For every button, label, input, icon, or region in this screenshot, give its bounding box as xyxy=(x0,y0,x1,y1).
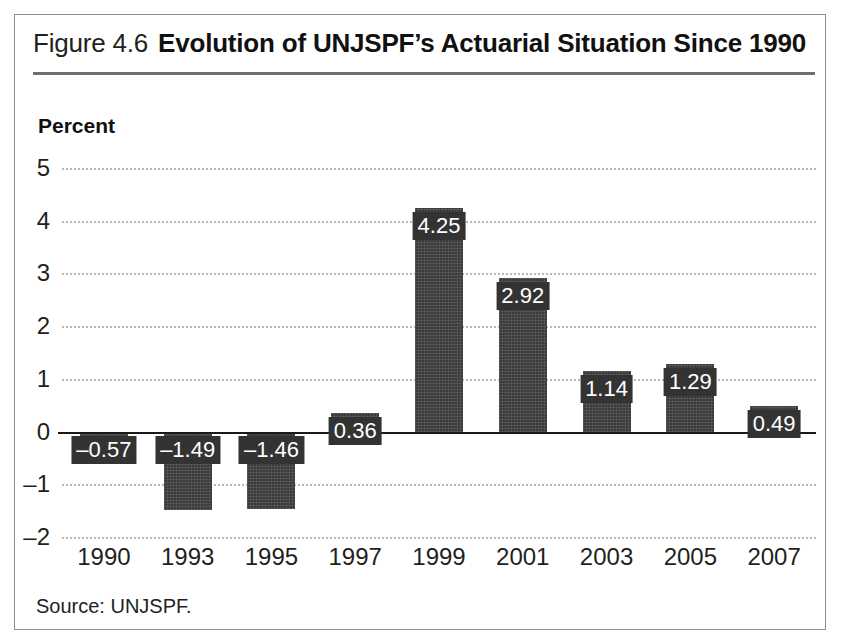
bar-value-label: 1.14 xyxy=(580,375,633,403)
figure-panel: Figure 4.6Evolution of UNJSPF’s Actuaria… xyxy=(0,0,845,643)
zero-axis-line xyxy=(58,432,816,434)
y-axis-title: Percent xyxy=(38,114,115,138)
x-axis-tick-label: 1999 xyxy=(412,543,465,571)
title-divider xyxy=(33,72,815,75)
bar-value-label: 1.29 xyxy=(664,368,717,396)
y-axis-tick-label: –1 xyxy=(23,470,50,498)
source-note: Source: UNJSPF. xyxy=(36,595,192,618)
y-axis-tick-label: 3 xyxy=(37,259,50,287)
page-title: Evolution of UNJSPF’s Actuarial Situatio… xyxy=(158,28,806,58)
bar-value-label: 2.92 xyxy=(496,282,549,310)
figure-title-row: Figure 4.6Evolution of UNJSPF’s Actuaria… xyxy=(33,28,815,64)
x-axis-tick-label: 1995 xyxy=(245,543,298,571)
x-axis-tick-label: 2003 xyxy=(580,543,633,571)
bar-value-label: 0.49 xyxy=(748,410,801,438)
x-axis-tick-label: 2005 xyxy=(664,543,717,571)
bar-value-label: 4.25 xyxy=(413,212,466,240)
x-axis-tick-label: 2007 xyxy=(747,543,800,571)
y-axis-tick-label: –2 xyxy=(23,523,50,551)
y-axis-tick-label: 1 xyxy=(37,365,50,393)
y-axis-tick-label: 5 xyxy=(37,154,50,182)
bar-value-label: –1.49 xyxy=(155,436,220,464)
bar-value-label: –1.46 xyxy=(239,436,304,464)
y-axis-tick-label: 0 xyxy=(37,418,50,446)
bar-value-label: 0.36 xyxy=(329,417,382,445)
x-axis-tick-label: 2001 xyxy=(496,543,549,571)
y-axis-tick-label: 2 xyxy=(37,312,50,340)
y-axis-tick-label: 4 xyxy=(37,207,50,235)
bar-value-label: –0.57 xyxy=(71,436,136,464)
bar[interactable] xyxy=(415,208,463,432)
x-axis-tick-label: 1997 xyxy=(329,543,382,571)
gridline xyxy=(62,168,816,170)
gridline xyxy=(62,537,816,539)
chart-plot-area: 543210–1–2–0.571990–1.491993–1.4619950.3… xyxy=(62,168,816,537)
x-axis-tick-label: 1990 xyxy=(77,543,130,571)
x-axis-tick-label: 1993 xyxy=(161,543,214,571)
figure-number: Figure 4.6 xyxy=(33,28,148,58)
